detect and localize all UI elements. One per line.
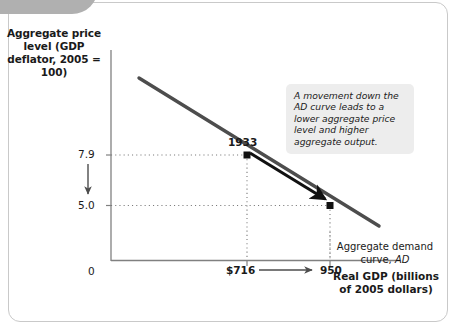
data-point-label-1933: 1933 (228, 136, 257, 148)
y-tick-label-50: 5.0 (78, 199, 95, 211)
x-tick-label-716: $716 (226, 264, 255, 276)
y-tick-label-79: 7.9 (78, 148, 95, 160)
y-axis-title: Aggregate price level (GDP deflator, 200… (2, 27, 106, 79)
movement-arrow-along-curve (250, 153, 325, 199)
data-point-950-marker (327, 202, 334, 209)
ad-curve-label-line1: Aggregate demand (337, 241, 433, 252)
figure-container: Aggregate price level (GDP deflator, 200… (0, 0, 469, 329)
ad-curve-label-italic: AD (395, 254, 410, 265)
data-point-1933-marker (244, 152, 251, 159)
ad-curve-label: Aggregate demand curve, AD (329, 241, 441, 266)
ad-curve-label-line2-prefix: curve, (361, 254, 395, 265)
annotation-callout: A movement down the AD curve leads to a … (286, 84, 414, 154)
x-axis-origin-label: 0 (88, 265, 95, 277)
x-axis-title: Real GDP (billions of 2005 dollars) (330, 270, 442, 295)
